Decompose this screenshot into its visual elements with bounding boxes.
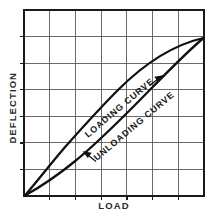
loading-curve-label: LOADING CURVE	[83, 76, 156, 140]
load-deflection-diagram: LOADING CURVE UNLOADING CURVE DEFLECTION…	[0, 0, 216, 216]
grid-lines	[24, 10, 204, 196]
plot-frame	[24, 10, 204, 196]
chart-canvas: LOADING CURVE UNLOADING CURVE	[0, 0, 216, 216]
x-axis-label: LOAD	[24, 201, 204, 211]
y-axis-label: DEFLECTION	[8, 68, 18, 148]
